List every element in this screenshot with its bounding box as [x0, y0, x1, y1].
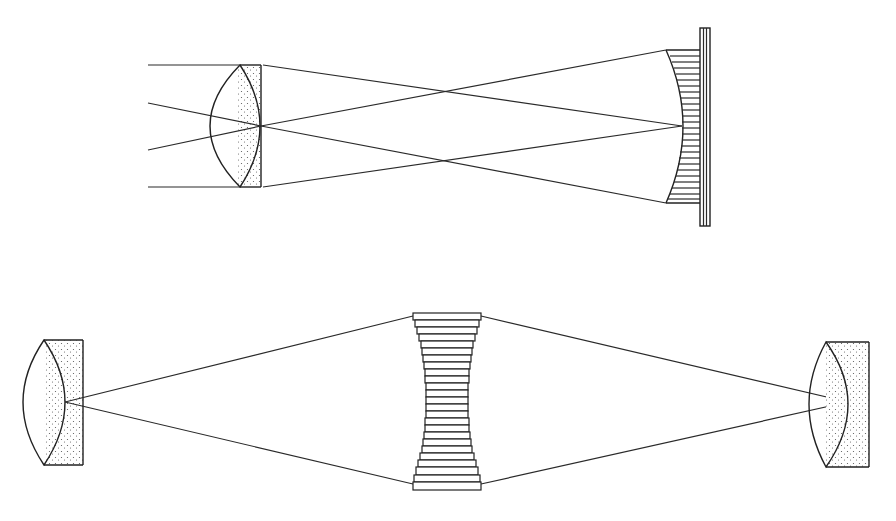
bottom-left-lens	[23, 340, 83, 465]
optical-diagram	[0, 0, 896, 521]
top-outgoing-rays	[261, 50, 682, 203]
bottom-diagram	[23, 313, 869, 490]
top-diagram	[148, 28, 710, 226]
bottom-right-lens	[809, 342, 869, 467]
plate-stack	[413, 313, 481, 490]
top-lens	[210, 65, 261, 187]
